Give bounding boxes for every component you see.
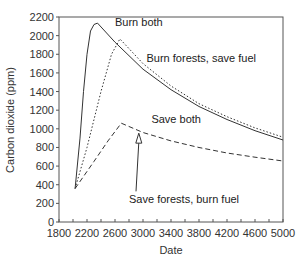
annotation-label: Burn forests, save fuel [147,52,256,64]
x-tick-label: 3800 [187,227,211,239]
y-tick-label: 1600 [30,67,54,79]
y-tick-label: 1000 [30,123,54,135]
x-tick-label: 4600 [243,227,267,239]
x-axis-label: Date [159,244,182,256]
annotation-label: Burn both [115,16,163,28]
y-axis: 0200400600800100012001400160018002000220… [30,11,59,228]
x-tick-label: 2600 [103,227,127,239]
annotation-label: Save both [151,113,201,125]
annotation-label: Save forests, burn fuel [129,193,239,205]
y-tick-label: 400 [36,179,54,191]
y-tick-label: 1400 [30,86,54,98]
y-tick-label: 2000 [30,30,54,42]
x-tick-label: 3000 [131,227,155,239]
series-burn-both [75,23,283,188]
y-tick-label: 800 [36,141,54,153]
x-tick-label: 1800 [47,227,71,239]
x-tick-label: 3400 [159,227,183,239]
series-lines [75,23,283,188]
y-tick-label: 2200 [30,11,54,23]
series-save-both [75,123,283,188]
annotation-arrow [136,142,139,191]
arrowhead-icon [136,133,142,143]
y-axis-label: Carbon dioxide (ppm) [4,67,16,173]
y-tick-label: 200 [36,197,54,209]
y-tick-label: 600 [36,160,54,172]
x-tick-label: 4200 [215,227,239,239]
line-chart: 0200400600800100012001400160018002000220… [0,0,307,265]
x-tick-label: 5000 [271,227,295,239]
x-tick-label: 2200 [75,227,99,239]
annotations: Burn bothBurn forests, save fuelSave bot… [115,16,256,205]
y-tick-label: 1800 [30,48,54,60]
y-tick-label: 1200 [30,104,54,116]
